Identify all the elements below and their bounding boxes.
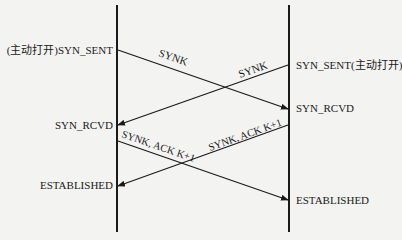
label-synack-right-to-left: SYNK, ACK K+1 (207, 117, 283, 153)
right-state-syn-sent: SYN_SENT(主动打开) (296, 59, 402, 71)
left-state-syn-sent: (主动打开)SYN_SENT (7, 44, 113, 56)
right-state-syn-rcvd: SYN_RCVD (296, 102, 354, 114)
arrow-synack-left-to-right (118, 141, 288, 200)
label-syn-left-to-right: SYNK (157, 47, 189, 68)
left-state-syn-rcvd: SYN_RCVD (55, 119, 113, 131)
arrow-syn-right-to-left (118, 65, 288, 125)
left-state-established: ESTABLISHED (40, 179, 113, 191)
label-syn-right-to-left: SYNK (237, 59, 269, 80)
right-state-established: ESTABLISHED (296, 194, 369, 206)
